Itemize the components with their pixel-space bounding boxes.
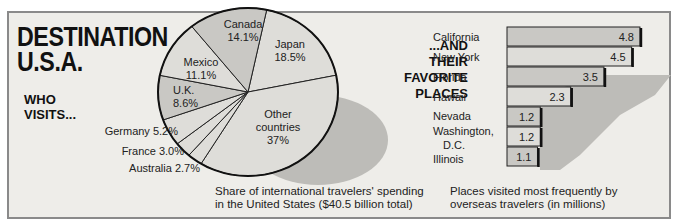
bar-category-label: Nevada — [433, 110, 472, 122]
bar-category-label: New York — [433, 51, 480, 63]
pie-label: 37% — [267, 134, 289, 146]
bar-value: 2.3 — [549, 91, 564, 103]
pie-label: Germany 5.2% — [105, 125, 179, 137]
pie-label: 11.1% — [186, 69, 217, 81]
pie-label: Japan — [275, 38, 305, 50]
bar-value: 1.1 — [516, 151, 531, 163]
bar-caption-line-2: overseas travelers (in millions) — [450, 198, 617, 211]
pie-label: U.K. — [173, 84, 194, 96]
pie-label: Other — [264, 108, 292, 120]
pie-label: 18.5% — [274, 51, 305, 63]
bar-category-label: Illinois — [433, 153, 464, 165]
bar-value: 4.8 — [619, 31, 634, 43]
pie-label: France 3.0% — [122, 145, 185, 157]
bar-caption: Places visited most frequently by overse… — [450, 185, 617, 211]
bar-category-label: Florida — [433, 71, 468, 83]
pie-caption-line-2: in the United States ($40.5 billion tota… — [215, 198, 424, 211]
pie-label: 14.1% — [227, 31, 258, 43]
pie-label: Canada — [224, 18, 263, 30]
bar-caption-line-1: Places visited most frequently by — [450, 185, 617, 198]
pie-label: 8.6% — [173, 97, 198, 109]
bar-category-label: California — [433, 31, 480, 43]
bar-value: 3.5 — [583, 71, 598, 83]
bar-value: 4.5 — [610, 51, 625, 63]
bar-value: 1.2 — [519, 131, 534, 143]
bar-category-label: Washington, — [433, 125, 494, 137]
pie-caption-line-1: Share of international travelers' spendi… — [215, 185, 424, 198]
bar-value: 1.2 — [519, 111, 534, 123]
pie-label: Australia 2.7% — [129, 162, 200, 174]
bar-category-label: D.C. — [443, 139, 465, 151]
bar-category-label: Hawaii — [433, 91, 466, 103]
pie-label: Mexico — [184, 56, 219, 68]
pie-label: countries — [256, 121, 301, 133]
pie-caption: Share of international travelers' spendi… — [215, 185, 424, 211]
